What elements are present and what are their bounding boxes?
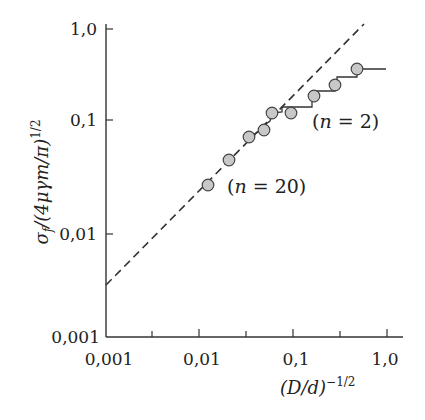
- y-ticks: [106, 29, 113, 234]
- reference-dashed-line: [106, 24, 364, 285]
- y-tick-label: 0,01: [59, 224, 97, 244]
- data-point: [266, 107, 278, 119]
- y-tick-label: 0,001: [51, 327, 100, 347]
- x-tick-label: 0,001: [85, 349, 134, 369]
- x-tick-label: 0,1: [282, 349, 309, 369]
- data-point: [308, 90, 320, 102]
- log-log-chart: 1,0 0,1 0,01 0,001 0,001 0,01 0,1 1,0 (D…: [0, 0, 425, 420]
- y-axis-title: σf/(4μγm/π)1/2: [29, 119, 55, 244]
- data-point: [351, 63, 363, 75]
- x-tick-label: 1,0: [371, 349, 398, 369]
- data-point: [285, 107, 297, 119]
- y-tick-label: 1,0: [70, 19, 97, 39]
- data-point: [258, 124, 270, 136]
- annotation-n20: (n = 20): [227, 175, 306, 197]
- data-point: [202, 179, 214, 191]
- y-tick-label: 0,1: [70, 110, 97, 130]
- data-point: [223, 154, 235, 166]
- x-axis-title: (D/d)−1/2: [280, 375, 355, 398]
- x-ticks: [152, 329, 387, 337]
- annotation-n2: (n = 2): [312, 110, 379, 132]
- data-point: [243, 131, 255, 143]
- data-point: [329, 79, 341, 91]
- x-tick-label: 0,01: [183, 349, 221, 369]
